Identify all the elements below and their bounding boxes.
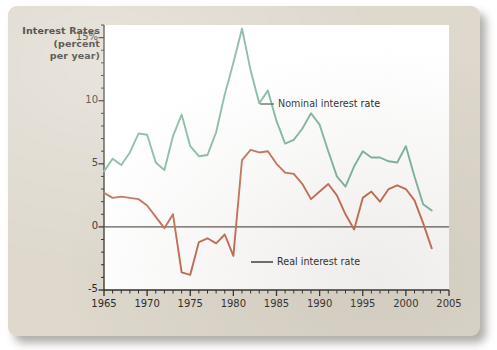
y-tick-label: 15%	[48, 31, 98, 42]
x-tick-label: 1980	[211, 298, 255, 309]
y-tick-label: -5	[48, 283, 98, 294]
x-tick-label: 1995	[341, 298, 385, 309]
real-series-label: Real interest rate	[277, 256, 360, 267]
plot-background	[104, 25, 449, 290]
x-tick-label: 2005	[427, 298, 471, 309]
x-tick-label: 2000	[384, 298, 428, 309]
interest-rates-chart: Interest Rates (percent per year) 15%105…	[8, 6, 480, 336]
y-tick-label: 5	[48, 157, 98, 168]
x-tick-label: 1970	[125, 298, 169, 309]
y-tick-label: 10	[48, 94, 98, 105]
y-tick-label: 0	[48, 220, 98, 231]
y-axis-title-line-3: per year)	[12, 50, 100, 63]
x-tick-label: 1965	[82, 298, 126, 309]
nominal-series-label: Nominal interest rate	[278, 98, 380, 109]
x-tick-label: 1990	[298, 298, 342, 309]
x-tick-label: 1985	[255, 298, 299, 309]
figure-card: Interest Rates (percent per year) 15%105…	[8, 6, 480, 336]
x-tick-label: 1975	[168, 298, 212, 309]
